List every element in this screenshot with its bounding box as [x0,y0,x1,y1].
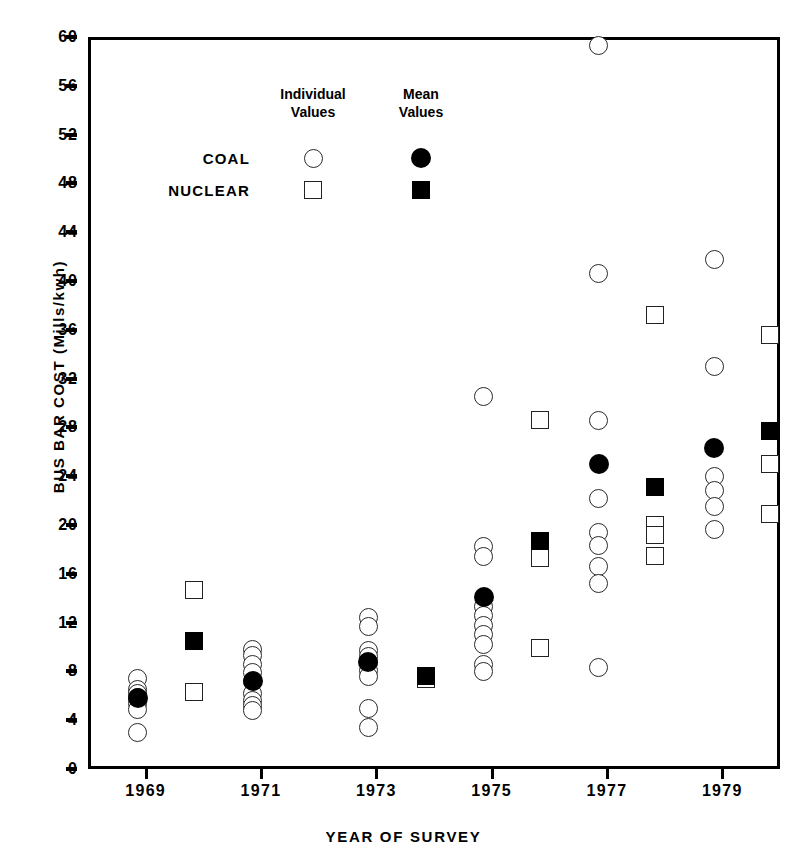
y-axis-tick-mark [66,279,77,283]
y-axis-tick-mark [66,718,77,722]
y-axis-tick-mark [66,133,77,137]
y-axis-tick-mark [66,572,77,576]
y-axis-tick-mark [66,767,77,771]
y-axis: 04812162024283236404448525660 [18,0,78,862]
legend-marker-coal-individual [304,149,323,168]
data-point-coal-individual [705,357,724,376]
y-axis-tick-mark [66,377,77,381]
data-point-coal-individual [705,250,724,269]
legend-row-label-nuclear: NUCLEAR [120,182,250,199]
legend-marker-nuclear-individual [304,181,322,199]
data-point-nuclear-mean [531,532,549,550]
data-point-coal-individual [474,635,493,654]
legend-marker-nuclear-mean [412,181,430,199]
data-point-coal-mean [589,454,609,474]
data-point-nuclear-individual [646,526,664,544]
x-axis-title: YEAR OF SURVEY [0,828,807,845]
legend-row-label-coal: COAL [120,150,250,167]
chart-page: BUS BAR COST (Mills/kwh) 048121620242832… [0,0,807,862]
data-point-coal-individual [128,723,147,742]
y-axis-tick-mark [66,230,77,234]
y-axis-tick-mark [66,35,77,39]
data-point-nuclear-mean [646,478,664,496]
legend: Individual Values Mean Values COAL NUCLE… [170,86,470,216]
x-axis-tick-mark [491,769,494,779]
y-axis-tick-mark [66,84,77,88]
data-point-nuclear-mean [417,667,435,685]
y-axis-tick-mark [66,425,77,429]
data-point-nuclear-individual [646,306,664,324]
data-point-nuclear-individual [761,326,779,344]
legend-column-header-individual: Individual Values [258,86,368,121]
data-point-coal-mean [358,652,378,672]
data-point-nuclear-individual [185,581,203,599]
x-axis-tick-mark [375,769,378,779]
data-point-nuclear-individual [761,505,779,523]
data-point-nuclear-mean [761,422,779,440]
legend-mean-line2: Values [366,104,476,122]
x-axis-tick-mark [260,769,263,779]
data-point-coal-mean [128,688,148,708]
data-point-coal-individual [474,662,493,681]
y-axis-tick-mark [66,474,77,478]
data-point-nuclear-individual [761,455,779,473]
y-axis-tick-mark [66,328,77,332]
data-point-nuclear-individual [646,547,664,565]
x-axis-tick-mark [721,769,724,779]
x-axis-tick-label-1979: 1979 [677,782,767,800]
data-point-nuclear-individual [185,683,203,701]
data-point-coal-individual [705,520,724,539]
x-axis-tick-label-1973: 1973 [331,782,421,800]
x-axis-tick-label-1969: 1969 [101,782,191,800]
legend-column-header-mean: Mean Values [366,86,476,121]
data-point-coal-mean [243,671,263,691]
x-axis-tick-label-1977: 1977 [562,782,652,800]
data-point-nuclear-individual [531,639,549,657]
data-point-coal-mean [474,587,494,607]
data-point-coal-individual [359,699,378,718]
x-axis-tick-mark [145,769,148,779]
y-axis-tick-mark [66,621,77,625]
x-axis-tick-mark [606,769,609,779]
data-point-nuclear-individual [531,549,549,567]
data-point-nuclear-individual [531,411,549,429]
legend-individual-line1: Individual [258,86,368,104]
data-point-coal-individual [359,718,378,737]
y-axis-tick-mark [66,523,77,527]
data-point-coal-individual [359,617,378,636]
x-axis-tick-label-1975: 1975 [447,782,537,800]
x-axis-tick-label-1971: 1971 [216,782,306,800]
data-point-coal-individual [589,411,608,430]
legend-marker-coal-mean [411,148,431,168]
y-axis-tick-mark [66,669,77,673]
legend-mean-line1: Mean [366,86,476,104]
data-point-nuclear-mean [185,632,203,650]
y-axis-tick-mark [66,181,77,185]
data-point-coal-individual [705,497,724,516]
data-point-coal-individual [589,489,608,508]
legend-individual-line2: Values [258,104,368,122]
